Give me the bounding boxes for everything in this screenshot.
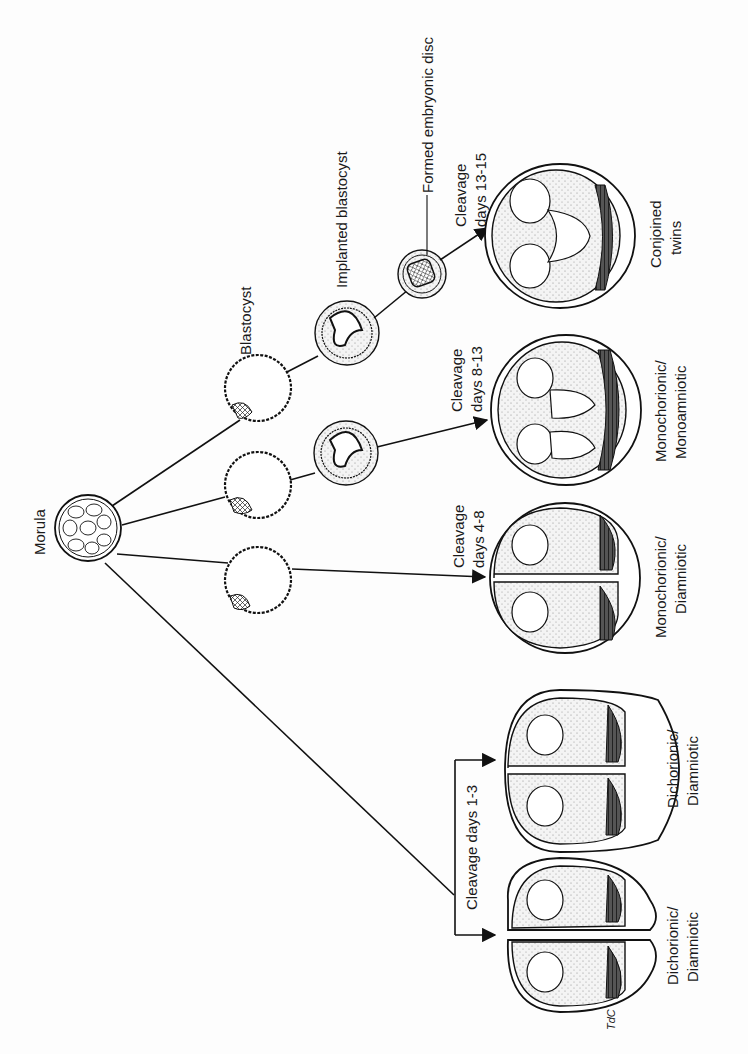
- implanted-blastocyst-2: [314, 421, 378, 485]
- arrow-line-4: [440, 228, 488, 260]
- connector-line-1: [287, 356, 318, 372]
- embryonic-disc: [398, 250, 446, 298]
- cleavage-13-15-line1: Cleavage: [452, 164, 469, 227]
- cleavage-8-13-line2: days 8-13: [468, 346, 485, 412]
- connector-line-3: [374, 290, 408, 318]
- blastocyst-3: [225, 547, 291, 613]
- di-di-2-line2: Diamniotic: [684, 911, 701, 982]
- branch-line-3: [117, 554, 228, 563]
- artist-signature: TdC: [605, 1009, 617, 1030]
- conjoined-line1: Conjoined: [647, 200, 664, 268]
- mono-di-figure: [490, 503, 640, 653]
- di-di-1-line1: Dichorionic/: [664, 729, 681, 808]
- arrow-line-2: [377, 420, 487, 447]
- branch-line-2: [122, 497, 225, 525]
- twinning-diagram: Morula Blastocyst Implanted blastocyst: [0, 0, 748, 1054]
- implanted-blastocyst-label: Implanted blastocyst: [333, 150, 350, 288]
- cleavage-4-8-line1: Cleavage: [450, 505, 467, 568]
- implanted-blastocyst-1: [315, 301, 379, 365]
- di-di-1-line2: Diamniotic: [684, 735, 701, 806]
- branch-line-1: [112, 420, 240, 506]
- cleavage-1-3-label: Cleavage days 1-3: [463, 785, 480, 910]
- diagram-canvas: Morula Blastocyst Implanted blastocyst: [0, 0, 748, 1054]
- mono-mono-line2: Monoamniotic: [672, 365, 689, 459]
- mono-di-line1: Monochorionic/: [652, 535, 669, 638]
- morula-label: Morula: [31, 508, 48, 555]
- di-di-2-line1: Dichorionic/: [664, 906, 681, 985]
- mono-mono-figure: [491, 335, 641, 485]
- blastocyst-label: Blastocyst: [237, 286, 254, 355]
- mono-mono-line1: Monochorionic/: [652, 359, 669, 462]
- cleavage-13-15-line2: days 13-15: [472, 153, 489, 227]
- di-di-figure-1: [505, 690, 679, 852]
- branch-line-4: [105, 563, 454, 895]
- blastocyst-2: [225, 452, 291, 518]
- cleavage-8-13-line1: Cleavage: [448, 349, 465, 412]
- blastocyst-1: [225, 355, 291, 421]
- embryonic-disc-label: Formed embryonic disc: [419, 37, 436, 193]
- arrow-line-3: [292, 569, 485, 577]
- di-di-figure-2: [508, 858, 656, 1012]
- morula: [55, 495, 121, 561]
- mono-di-line2: Diamniotic: [672, 543, 689, 614]
- conjoined-line2: twins: [667, 221, 684, 255]
- conjoined-twins-figure: [485, 164, 635, 308]
- connector-line-2: [290, 473, 315, 480]
- cleavage-4-8-line2: days 4-8: [470, 510, 487, 568]
